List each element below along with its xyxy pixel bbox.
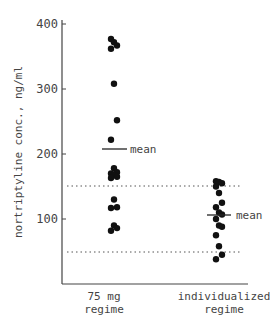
data-point — [216, 190, 222, 196]
tick-label-100: 100 — [36, 212, 58, 226]
data-point — [213, 183, 219, 189]
data-point — [216, 243, 222, 249]
tick-label-200: 200 — [36, 147, 58, 161]
y-axis-label: nortriptyline conc., ng/ml — [12, 66, 25, 238]
series-75mg-points — [108, 36, 120, 234]
data-point — [114, 225, 120, 231]
data-point — [213, 216, 219, 222]
category-label-75mg-line2: regime — [84, 303, 124, 316]
data-point — [108, 228, 114, 234]
tick-label-400: 400 — [36, 17, 58, 31]
tick-label-300: 300 — [36, 82, 58, 96]
data-point — [219, 180, 225, 186]
data-point — [219, 200, 225, 206]
category-label-individualized: individualized — [178, 290, 271, 303]
mean-label-75mg: mean — [130, 143, 157, 156]
data-point — [114, 204, 120, 210]
chart: 400 300 200 100 nortriptyline conc., ng/… — [0, 0, 277, 328]
data-point — [213, 232, 219, 238]
data-point — [111, 81, 117, 87]
series-individualized-points — [213, 178, 225, 262]
data-point — [114, 42, 120, 48]
data-point — [111, 196, 117, 202]
data-point — [219, 252, 225, 258]
data-point — [108, 137, 114, 143]
data-point — [108, 175, 114, 181]
category-label-75mg: 75 mg — [87, 290, 120, 303]
data-point — [108, 46, 114, 52]
mean-label-individualized: mean — [236, 209, 263, 222]
data-point — [108, 205, 114, 211]
data-point — [213, 256, 219, 262]
data-point — [114, 117, 120, 123]
category-label-individualized-line2: regime — [204, 303, 244, 316]
data-point — [219, 224, 225, 230]
data-point — [114, 174, 120, 180]
